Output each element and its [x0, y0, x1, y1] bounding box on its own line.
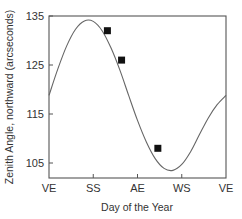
observation-marker	[118, 57, 125, 64]
y-axis-label: Zenith Angle, northward (arcseconds)	[3, 10, 15, 185]
series-layer	[49, 20, 226, 171]
plot-border	[49, 16, 226, 178]
x-tick-label: SS	[86, 182, 101, 194]
plot-frame	[49, 16, 226, 178]
x-tick-label: AE	[130, 182, 145, 194]
model-curve	[49, 20, 226, 171]
y-tick-label: 105	[26, 157, 44, 169]
zenith-angle-chart: 105115125135 VESSAEWSVE Day of the Year …	[0, 0, 242, 219]
y-tick-label: 115	[26, 108, 44, 120]
x-axis-label: Day of the Year	[101, 201, 173, 213]
x-tick-label: VE	[219, 182, 234, 194]
observation-marker	[104, 27, 111, 34]
y-tick-label: 125	[26, 59, 44, 71]
x-tick-label: VE	[42, 182, 57, 194]
y-tick-label: 135	[26, 10, 44, 22]
x-axis-ticks: VESSAEWSVE	[42, 174, 234, 194]
x-tick-label: WS	[173, 182, 191, 194]
observation-marker	[154, 145, 161, 152]
